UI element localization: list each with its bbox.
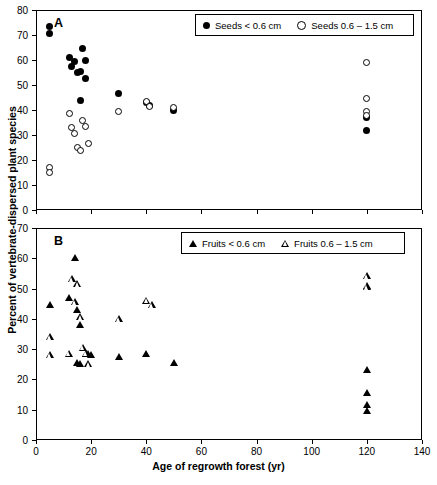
y-tick-mark xyxy=(32,349,36,350)
data-point-filled-triangle xyxy=(363,407,371,414)
y-tick-label: 70 xyxy=(4,223,28,234)
y-tick-mark xyxy=(32,258,36,259)
y-tick-label: 0 xyxy=(4,435,28,446)
x-tick-mark xyxy=(36,440,37,444)
data-point-filled-triangle xyxy=(73,306,81,313)
data-point-open-triangle xyxy=(363,283,371,290)
x-tick-label: 20 xyxy=(76,446,106,457)
y-tick-mark xyxy=(32,228,36,229)
x-tick-label: 120 xyxy=(352,446,382,457)
filled-triangle-icon xyxy=(189,240,197,247)
x-tick-mark xyxy=(367,440,368,444)
data-point-filled-triangle xyxy=(363,389,371,396)
data-point-open-triangle xyxy=(84,360,92,367)
x-tick-label: 40 xyxy=(131,446,161,457)
legend-item: Fruits < 0.6 cm xyxy=(189,238,265,249)
x-axis-label: Age of regrowth forest (yr) xyxy=(0,460,437,472)
legend-item: Fruits 0.6 – 1.5 cm xyxy=(281,238,373,249)
panel-letter-b: B xyxy=(54,234,63,248)
legend-label: Fruits < 0.6 cm xyxy=(202,238,265,249)
data-point-filled-triangle xyxy=(142,350,150,357)
x-tick-mark xyxy=(91,440,92,444)
legend-b: Fruits < 0.6 cmFruits 0.6 – 1.5 cm xyxy=(181,232,405,254)
x-tick-label: 100 xyxy=(297,446,327,457)
data-point-open-triangle xyxy=(73,280,81,287)
y-tick-mark xyxy=(32,410,36,411)
y-tick-mark xyxy=(32,289,36,290)
x-tick-mark xyxy=(257,440,258,444)
data-point-open-triangle xyxy=(46,351,54,358)
data-point-filled-triangle xyxy=(76,360,84,367)
y-tick-label: 40 xyxy=(4,313,28,324)
chart-figure: Percent of vertebrate-dispersed plant sp… xyxy=(0,0,437,485)
y-tick-label: 30 xyxy=(4,344,28,355)
data-point-open-triangle xyxy=(65,350,73,357)
x-tick-label: 80 xyxy=(242,446,272,457)
panel-b: 010203040506070020406080100120140BFruits… xyxy=(0,0,437,485)
data-point-open-triangle xyxy=(115,315,123,322)
data-point-filled-triangle xyxy=(76,321,84,328)
data-point-filled-triangle xyxy=(363,366,371,373)
x-tick-mark xyxy=(201,440,202,444)
data-point-filled-triangle xyxy=(46,301,54,308)
data-point-open-triangle xyxy=(71,298,79,305)
x-tick-mark xyxy=(422,440,423,444)
data-point-filled-triangle xyxy=(170,359,178,366)
y-tick-mark xyxy=(32,319,36,320)
data-point-open-triangle xyxy=(363,272,371,279)
y-tick-mark xyxy=(32,379,36,380)
y-tick-label: 10 xyxy=(4,404,28,415)
data-point-open-triangle xyxy=(76,313,84,320)
open-triangle-icon xyxy=(281,240,289,247)
x-tick-label: 140 xyxy=(407,446,437,457)
data-point-filled-triangle xyxy=(71,254,79,261)
y-tick-label: 60 xyxy=(4,253,28,264)
x-tick-mark xyxy=(312,440,313,444)
x-tick-mark xyxy=(146,440,147,444)
y-tick-label: 20 xyxy=(4,374,28,385)
data-point-open-triangle xyxy=(46,333,54,340)
x-tick-label: 0 xyxy=(21,446,51,457)
x-tick-label: 60 xyxy=(186,446,216,457)
data-point-open-triangle xyxy=(148,301,156,308)
legend-label: Fruits 0.6 – 1.5 cm xyxy=(294,238,373,249)
y-tick-label: 50 xyxy=(4,283,28,294)
data-point-filled-triangle xyxy=(115,353,123,360)
data-point-open-triangle xyxy=(82,350,90,357)
